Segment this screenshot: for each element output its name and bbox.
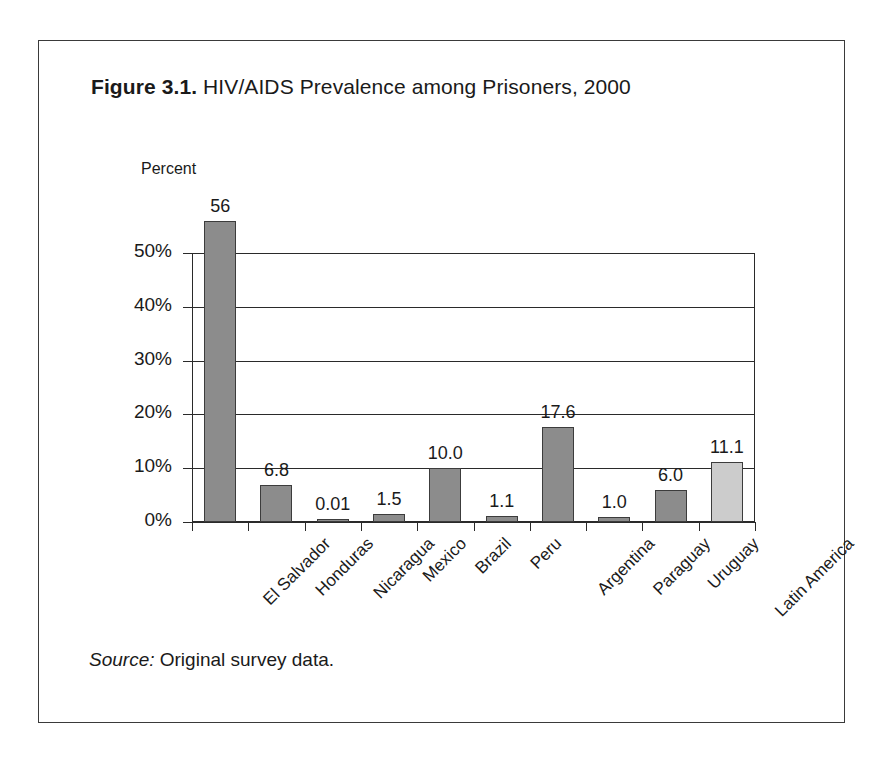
- bar-value-label: 10.0: [404, 443, 486, 464]
- source-label: Source:: [89, 649, 154, 670]
- bar[interactable]: [598, 517, 630, 522]
- bar-value-label: 6.0: [629, 465, 711, 486]
- bar[interactable]: [373, 514, 405, 522]
- bar[interactable]: [486, 516, 518, 522]
- x-axis-tick: [361, 522, 362, 531]
- source-note: Source: Original survey data.: [89, 649, 334, 671]
- y-axis-tick: [183, 414, 192, 415]
- gridline: [192, 414, 755, 415]
- figure-title: Figure 3.1. HIV/AIDS Prevalence among Pr…: [91, 75, 631, 99]
- bar-value-label: 1.0: [573, 492, 655, 513]
- y-axis-title: Percent: [141, 160, 196, 178]
- y-axis-label: 0%: [94, 509, 172, 531]
- y-axis-line: [192, 253, 193, 523]
- bar-value-label: 1.1: [461, 491, 543, 512]
- bar-value-label: 1.5: [348, 489, 430, 510]
- bar-value-label: 6.8: [235, 460, 317, 481]
- source-text: Original survey data.: [154, 649, 334, 670]
- y-axis-tick: [183, 361, 192, 362]
- y-axis-label: 30%: [94, 348, 172, 370]
- x-axis-tick: [530, 522, 531, 531]
- y-axis-tick: [183, 307, 192, 308]
- x-axis-tick: [642, 522, 643, 531]
- x-axis-tick: [417, 522, 418, 531]
- figure-number: Figure 3.1.: [91, 75, 197, 98]
- x-axis-tick: [248, 522, 249, 531]
- y-axis-tick: [183, 468, 192, 469]
- bar[interactable]: [317, 519, 349, 522]
- bar[interactable]: [711, 462, 743, 522]
- x-axis-tick: [755, 522, 756, 531]
- x-axis-tick: [305, 522, 306, 531]
- bar[interactable]: [204, 221, 236, 522]
- bar-value-label: 17.6: [517, 402, 599, 423]
- x-axis-tick: [474, 522, 475, 531]
- y-axis-tick: [183, 253, 192, 254]
- bar[interactable]: [260, 485, 292, 522]
- y-axis-label: 20%: [94, 401, 172, 423]
- x-axis-line: [185, 522, 756, 523]
- x-axis-tick: [699, 522, 700, 531]
- y-axis-label: 10%: [94, 455, 172, 477]
- gridline: [192, 361, 755, 362]
- x-axis-tick: [192, 522, 193, 531]
- bar[interactable]: [429, 468, 461, 522]
- y-axis-label: 40%: [94, 294, 172, 316]
- bar-value-label: 11.1: [686, 437, 768, 458]
- bar[interactable]: [655, 490, 687, 522]
- bar-value-label: 56: [179, 196, 261, 217]
- x-axis-tick: [586, 522, 587, 531]
- figure-title-text: HIV/AIDS Prevalence among Prisoners, 200…: [203, 75, 631, 98]
- y-axis-label: 50%: [94, 240, 172, 262]
- bar[interactable]: [542, 427, 574, 522]
- gridline: [192, 307, 755, 308]
